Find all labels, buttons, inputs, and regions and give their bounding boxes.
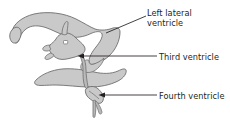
leader-line-left-lateral-ventricle	[106, 16, 146, 33]
infundibular-recess-shape	[45, 53, 54, 60]
label-third-ventricle: Third ventricle	[159, 52, 219, 62]
ventricles-diagram-figure: Left lateral ventricle Third ventricle F…	[0, 0, 230, 121]
label-fourth-ventricle: Fourth ventricle	[159, 91, 225, 101]
optic-recess-shape	[43, 45, 51, 51]
interventricular-foramen-icon	[64, 41, 68, 44]
temporal-horn-shape	[35, 69, 127, 87]
label-left-lateral-ventricle: Left lateral ventricle	[147, 8, 192, 28]
anterior-horn-shape	[10, 27, 21, 43]
